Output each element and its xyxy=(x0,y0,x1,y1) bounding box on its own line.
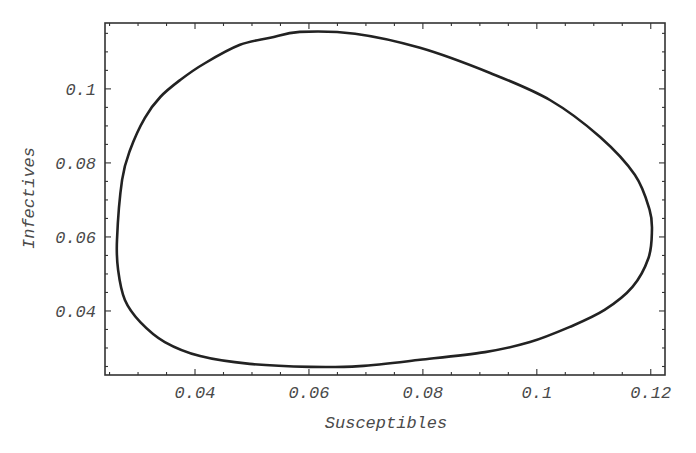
y-tick-labels: 0.040.060.080.1 xyxy=(55,81,96,322)
x-axis-label: Susceptibles xyxy=(325,414,447,433)
phase-plot: 0.040.060.080.10.12 0.040.060.080.1 Susc… xyxy=(0,0,696,453)
x-tick-label: 0.06 xyxy=(289,384,330,403)
y-axis-label: Infectives xyxy=(20,147,39,249)
y-tick-label: 0.04 xyxy=(55,303,96,322)
y-tick-label: 0.1 xyxy=(65,81,96,100)
y-tick-label: 0.08 xyxy=(55,155,96,174)
x-tick-label: 0.08 xyxy=(402,384,443,403)
y-tick-label: 0.06 xyxy=(55,229,96,248)
x-tick-labels: 0.040.060.080.10.12 xyxy=(175,384,672,403)
x-tick-label: 0.12 xyxy=(630,384,671,403)
x-tick-label: 0.04 xyxy=(175,384,216,403)
trajectory-curve xyxy=(117,31,652,367)
x-tick-label: 0.1 xyxy=(522,384,553,403)
